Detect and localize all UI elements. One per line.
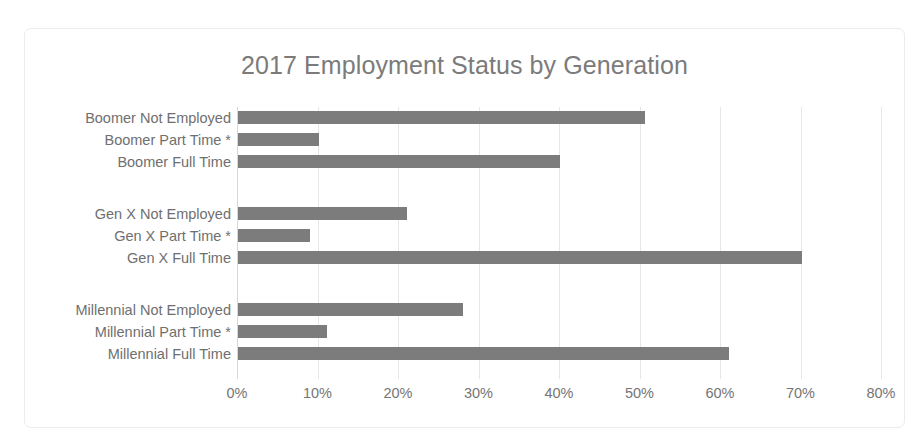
value-axis-line <box>237 107 238 379</box>
gridline <box>881 107 882 379</box>
plot-area <box>237 107 881 379</box>
tick-label: 70% <box>786 385 815 401</box>
category-label: Millennial Not Employed <box>75 303 231 317</box>
gridline <box>318 107 319 379</box>
bar <box>238 347 729 360</box>
category-label: Boomer Full Time <box>117 155 231 169</box>
chart-title: 2017 Employment Status by Generation <box>25 51 904 80</box>
gridline <box>559 107 560 379</box>
category-label: Boomer Not Employed <box>85 111 231 125</box>
bar <box>238 229 310 242</box>
category-label: Gen X Not Employed <box>95 207 231 221</box>
bar <box>238 251 802 264</box>
chart-container: 2017 Employment Status by Generation Boo… <box>24 28 905 428</box>
category-label: Millennial Full Time <box>108 347 231 361</box>
bar <box>238 325 327 338</box>
tick-label: 40% <box>544 385 573 401</box>
gridline <box>801 107 802 379</box>
category-label: Gen X Part Time * <box>114 229 231 243</box>
tick-label: 80% <box>866 385 895 401</box>
tick-label: 0% <box>227 385 248 401</box>
gridline <box>398 107 399 379</box>
bar <box>238 111 645 124</box>
category-label: Gen X Full Time <box>127 251 231 265</box>
tick-label: 10% <box>303 385 332 401</box>
category-label: Millennial Part Time * <box>95 325 231 339</box>
category-label: Boomer Part Time * <box>104 133 231 147</box>
gridline <box>720 107 721 379</box>
tick-label: 30% <box>464 385 493 401</box>
gridline <box>479 107 480 379</box>
gridline <box>640 107 641 379</box>
category-axis-labels: Boomer Not Employed Boomer Part Time * B… <box>25 107 231 379</box>
bar <box>238 303 463 316</box>
tick-label: 50% <box>625 385 654 401</box>
tick-label: 60% <box>705 385 734 401</box>
value-axis-tick-labels: 0%10%20%30%40%50%60%70%80% <box>237 385 881 409</box>
bar <box>238 133 319 146</box>
bar <box>238 207 407 220</box>
tick-label: 20% <box>383 385 412 401</box>
bar <box>238 155 560 168</box>
